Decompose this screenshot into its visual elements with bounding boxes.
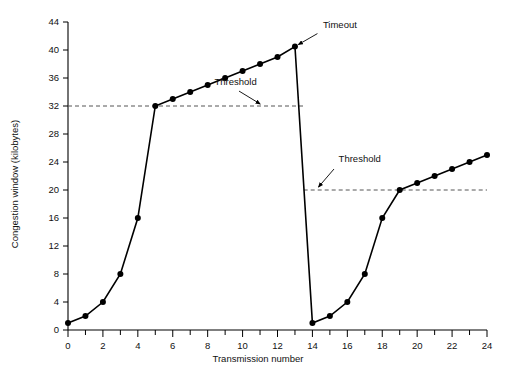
x-axis-tick-label: 24 bbox=[482, 340, 493, 351]
x-axis-tick-label: 20 bbox=[412, 340, 423, 351]
y-axis-tick-label: 28 bbox=[48, 128, 59, 139]
y-axis-tick-label: 12 bbox=[48, 240, 59, 251]
chart-background bbox=[0, 0, 511, 378]
data-point-marker bbox=[292, 44, 298, 50]
x-axis-tick-label: 4 bbox=[135, 340, 140, 351]
x-axis-tick-label: 16 bbox=[342, 340, 353, 351]
x-axis-tick-label: 2 bbox=[100, 340, 105, 351]
data-point-marker bbox=[257, 61, 263, 67]
data-point-marker bbox=[187, 89, 193, 95]
data-point-marker bbox=[432, 173, 438, 179]
data-point-marker bbox=[414, 180, 420, 186]
x-axis-tick-label: 18 bbox=[377, 340, 388, 351]
y-axis-tick-label: 24 bbox=[48, 156, 59, 167]
x-axis-tick-label: 6 bbox=[170, 340, 175, 351]
y-axis-tick-label: 16 bbox=[48, 212, 59, 223]
y-axis-tick-label: 44 bbox=[48, 16, 59, 27]
annotation-label-threshold-2: Threshold bbox=[339, 153, 381, 164]
annotation-label-threshold-1: Threshold bbox=[214, 76, 256, 87]
x-axis-tick-label: 0 bbox=[65, 340, 70, 351]
x-axis-tick-label: 22 bbox=[447, 340, 458, 351]
data-point-marker bbox=[100, 299, 106, 305]
x-axis-tick-label: 14 bbox=[307, 340, 318, 351]
data-point-marker bbox=[379, 215, 385, 221]
data-point-marker bbox=[240, 68, 246, 74]
data-point-marker bbox=[344, 299, 350, 305]
y-axis-tick-label: 32 bbox=[48, 100, 59, 111]
data-point-marker bbox=[484, 152, 490, 158]
data-point-marker bbox=[65, 320, 71, 326]
congestion-window-chart: 048121620242832364044 024681012141618202… bbox=[0, 0, 511, 378]
x-axis-tick-label: 8 bbox=[205, 340, 210, 351]
data-point-marker bbox=[205, 82, 211, 88]
y-axis-tick-label: 0 bbox=[54, 324, 59, 335]
data-point-marker bbox=[397, 187, 403, 193]
y-axis-tick-label: 36 bbox=[48, 72, 59, 83]
x-axis-title: Transmission number bbox=[213, 353, 304, 364]
data-point-marker bbox=[449, 166, 455, 172]
data-point-marker bbox=[152, 103, 158, 109]
y-axis-tick-label: 8 bbox=[54, 268, 59, 279]
data-point-marker bbox=[117, 271, 123, 277]
x-axis-tick-label: 10 bbox=[237, 340, 248, 351]
data-point-marker bbox=[467, 159, 473, 165]
x-axis-tick-label: 12 bbox=[272, 340, 283, 351]
data-point-marker bbox=[82, 313, 88, 319]
data-point-marker bbox=[327, 313, 333, 319]
y-axis-title: Congestion window (kilobytes) bbox=[9, 120, 20, 248]
data-point-marker bbox=[275, 54, 281, 60]
data-point-marker bbox=[309, 320, 315, 326]
y-axis-tick-label: 20 bbox=[48, 184, 59, 195]
y-axis-tick-label: 4 bbox=[54, 296, 59, 307]
y-axis-tick-label: 40 bbox=[48, 44, 59, 55]
chart-canvas: 048121620242832364044 024681012141618202… bbox=[0, 0, 511, 378]
data-point-marker bbox=[135, 215, 141, 221]
data-point-marker bbox=[170, 96, 176, 102]
annotation-label-timeout: Timeout bbox=[323, 19, 357, 30]
data-point-marker bbox=[362, 271, 368, 277]
